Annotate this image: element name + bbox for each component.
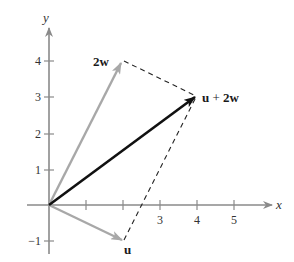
x-tick-label-5: 5 bbox=[231, 213, 237, 227]
vector-2w bbox=[49, 63, 121, 205]
vector-u bbox=[49, 205, 122, 240]
y-tick-label-neg1: −1 bbox=[28, 234, 41, 248]
vector-u-plus-2w bbox=[49, 97, 195, 205]
y-tick-label-4: 4 bbox=[35, 54, 41, 68]
y-tick-label-3: 3 bbox=[35, 90, 41, 104]
y-tick-label-1: 1 bbox=[35, 163, 41, 177]
axes: 3 4 5 4 3 2 1 −1 x y bbox=[27, 10, 282, 254]
label-sum-u: u bbox=[202, 90, 209, 105]
x-axis-label: x bbox=[275, 197, 282, 212]
label-2w: 2w bbox=[93, 54, 110, 69]
vector-diagram: 3 4 5 4 3 2 1 −1 x y bbox=[0, 0, 294, 262]
vectors bbox=[49, 63, 195, 240]
dashed-edge-2w-to-sum bbox=[124, 61, 196, 96]
x-tick-label-3: 3 bbox=[157, 213, 163, 227]
label-sum-plus: + bbox=[209, 90, 223, 105]
label-u: u bbox=[124, 242, 131, 257]
label-sum-2w: 2w bbox=[223, 90, 240, 105]
label-u-plus-2w: u + 2w bbox=[202, 90, 240, 105]
x-tick-label-4: 4 bbox=[194, 213, 200, 227]
y-axis-label: y bbox=[41, 10, 49, 25]
y-tick-label-2: 2 bbox=[35, 127, 41, 141]
